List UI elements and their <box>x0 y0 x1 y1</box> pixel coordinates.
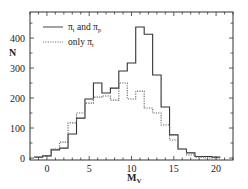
y-tick-label: 200 <box>10 93 25 104</box>
plot-border <box>30 12 233 160</box>
legend-solid-label: πt and πp <box>68 22 101 33</box>
series-dotted-histogram <box>34 83 220 158</box>
y-tick-label: 100 <box>10 123 25 134</box>
legend: πt and πp only πt <box>43 22 101 48</box>
x-axis-label-sub: V <box>136 177 141 185</box>
x-tick-label: 15 <box>169 163 179 174</box>
y-axis-label: N <box>9 47 17 58</box>
x-tick-label: 5 <box>87 163 92 174</box>
legend-dotted-label: only πt <box>68 37 94 48</box>
y-tick-label: 0 <box>20 153 25 164</box>
x-tick-label: 20 <box>211 163 221 174</box>
y-tick-label: 400 <box>10 33 25 44</box>
series-solid-histogram <box>34 27 220 157</box>
x-axis-label: MV <box>127 172 142 185</box>
plot-frame <box>30 12 233 160</box>
axis-ticks <box>30 12 233 160</box>
histogram-chart: 05101520 0100200300400 N MV πt and πp on… <box>0 0 248 189</box>
y-tick-label: 300 <box>10 63 25 74</box>
x-tick-label: 0 <box>44 163 49 174</box>
histogram-series <box>34 27 220 158</box>
